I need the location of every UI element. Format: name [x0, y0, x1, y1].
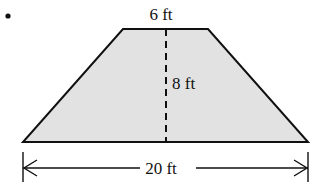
top-side-length-label: 6 ft	[0, 6, 322, 23]
bottom-side-length-label: 20 ft	[0, 160, 322, 177]
trapezoid-figure: 6 ft 8 ft 20 ft	[0, 0, 322, 187]
height-length-label: 8 ft	[172, 75, 195, 92]
